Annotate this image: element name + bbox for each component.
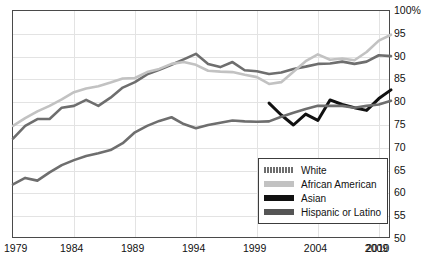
legend-swatch (264, 209, 294, 215)
y-axis-tick-label: 70 (394, 142, 406, 152)
y-axis-tick-label: 55 (394, 210, 406, 220)
legend-swatch (264, 195, 294, 201)
y-axis-tick-label: 65 (394, 165, 406, 175)
legend-item: Asian (264, 191, 381, 205)
x-axis-tick-label: 2010 (366, 243, 389, 254)
legend-item: Hispanic or Latino (264, 205, 381, 219)
y-axis-tick-label: 50 (394, 233, 406, 243)
y-axis-tick-label: 75 (394, 119, 406, 129)
series-line-african-american (13, 35, 391, 126)
legend-item: African American (264, 177, 381, 191)
x-axis-tick-label: 1994 (182, 243, 205, 254)
chart-legend: WhiteAfrican AmericanAsianHispanic or La… (258, 158, 388, 224)
line-chart: 100%95908580757065605550 197919841989199… (0, 0, 430, 265)
legend-label: Hispanic or Latino (301, 207, 381, 218)
legend-swatch (264, 181, 294, 187)
y-axis-tick-label: 60 (394, 187, 406, 197)
legend-swatch (264, 167, 294, 173)
y-axis-tick-label: 85 (394, 73, 406, 83)
x-axis-tick-label: 1979 (4, 243, 27, 254)
x-axis-tick-label: 1984 (60, 243, 83, 254)
y-axis-tick-label: 100% (394, 5, 421, 15)
y-axis-tick-label: 95 (394, 28, 406, 38)
x-axis-tick-label: 1999 (243, 243, 266, 254)
legend-label: Asian (301, 193, 326, 204)
legend-item: White (264, 163, 381, 177)
legend-label: White (301, 165, 327, 176)
y-axis-tick-label: 90 (394, 51, 406, 61)
series-line-asian (269, 90, 391, 125)
x-axis-tick-label: 2004 (304, 243, 327, 254)
legend-label: African American (301, 179, 377, 190)
y-axis-tick-label: 80 (394, 96, 406, 106)
x-axis-tick-label: 1989 (121, 243, 144, 254)
